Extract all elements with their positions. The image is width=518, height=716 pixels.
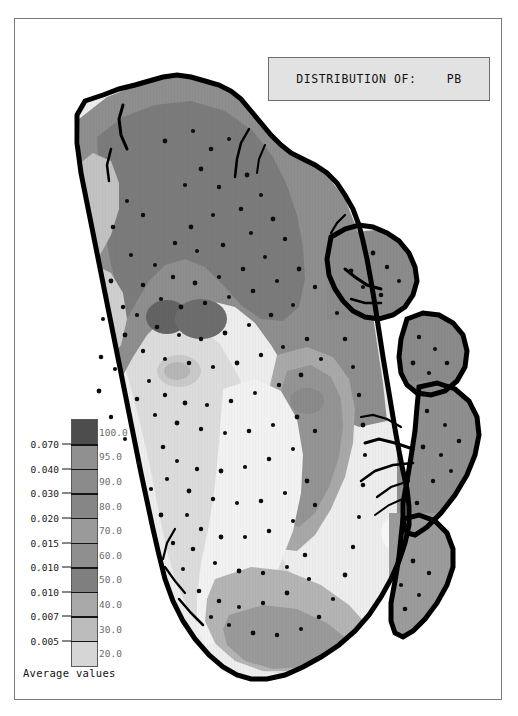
tick-label: 0.030 <box>30 488 59 499</box>
percentile-label: 30.0 <box>99 623 122 634</box>
colorbar-right-ticks: 100.0 95.0 90.0 80.0 70.0 60.0 50.0 40.0… <box>99 417 159 667</box>
percentile-label: 100.0 <box>99 426 128 437</box>
tick-dash <box>62 444 71 445</box>
tick-label: 0.010 <box>30 586 59 597</box>
percentile-label: 40.0 <box>99 599 122 610</box>
tick-dash <box>62 567 71 568</box>
colorbar-left-tick: 0.007 <box>30 611 71 622</box>
colorbar-band <box>72 543 97 568</box>
legend-colorbar: 0.070 0.040 0.030 0.020 0.015 0.010 <box>19 417 159 687</box>
colorbar-separator <box>71 641 98 643</box>
distribution-title: DISTRIBUTION OF: PB <box>296 72 462 86</box>
tick-label: 0.010 <box>30 562 59 573</box>
tick-label: 0.040 <box>30 463 59 474</box>
colorbar-left-tick: 0.070 <box>30 439 71 450</box>
colorbar-separator <box>71 518 98 520</box>
tick-dash <box>62 591 71 592</box>
footer-caption: Average values <box>23 667 116 679</box>
colorbar-separator <box>71 469 98 471</box>
colorbar-left-tick: 0.040 <box>30 463 71 474</box>
tick-dash <box>62 542 71 543</box>
colorbar-left-tick: 0.020 <box>30 512 71 523</box>
colorbar-separator <box>71 444 98 446</box>
percentile-label: 20.0 <box>99 648 122 659</box>
tick-label: 0.015 <box>30 537 59 548</box>
colorbar-left-tick: 0.010 <box>30 586 71 597</box>
tick-dash <box>62 616 71 617</box>
percentile-label: 80.0 <box>99 500 122 511</box>
colorbar-left-ticks: 0.070 0.040 0.030 0.020 0.015 0.010 <box>19 417 71 667</box>
colorbar-band <box>72 641 97 666</box>
distribution-map-page: DISTRIBUTION OF: PB <box>0 0 518 716</box>
colorbar-left-tick: 0.030 <box>30 488 71 499</box>
tick-label: 0.070 <box>30 439 59 450</box>
colorbar-separator <box>71 493 98 495</box>
percentile-label: 95.0 <box>99 451 122 462</box>
colorbar-band <box>72 445 97 470</box>
colorbar-band <box>72 518 97 543</box>
percentile-label: 90.0 <box>99 476 122 487</box>
colorbar-separator <box>71 543 98 545</box>
tick-dash <box>62 468 71 469</box>
percentile-label: 50.0 <box>99 574 122 585</box>
tick-label: 0.005 <box>30 635 59 646</box>
colorbar-band <box>72 568 97 593</box>
colorbar-band <box>72 617 97 642</box>
colorbar-left-tick: 0.010 <box>30 562 71 573</box>
colorbar-separator <box>71 592 98 594</box>
colorbar-band <box>72 592 97 617</box>
title-box: DISTRIBUTION OF: PB <box>268 57 490 101</box>
colorbar-separator <box>71 616 98 618</box>
colorbar-left-tick: 0.015 <box>30 537 71 548</box>
percentile-label: 60.0 <box>99 549 122 560</box>
colorbar-band <box>72 494 97 519</box>
tick-dash <box>62 493 71 494</box>
tick-dash <box>62 517 71 518</box>
colorbar-band <box>72 469 97 494</box>
tick-label: 0.020 <box>30 512 59 523</box>
colorbar-band <box>72 420 97 445</box>
percentile-label: 70.0 <box>99 525 122 536</box>
colorbar-left-tick: 0.005 <box>30 635 71 646</box>
tick-label: 0.007 <box>30 611 59 622</box>
colorbar-separator <box>71 567 98 569</box>
plot-frame: DISTRIBUTION OF: PB <box>14 18 502 700</box>
tick-dash <box>62 640 71 641</box>
